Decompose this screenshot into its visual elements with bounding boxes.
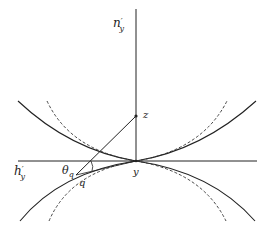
- angle-arc: [91, 161, 93, 171]
- solid-upper-right-curve: [136, 101, 256, 161]
- segment-q-y: [76, 161, 136, 175]
- label-angle: θq: [62, 164, 74, 179]
- label-horizontal-axis: h′y: [14, 164, 26, 181]
- dashed-upper-left-curve: [47, 101, 136, 161]
- point-z-marker: [134, 114, 137, 117]
- diagram-canvas: n′y h′y z y q θq: [0, 0, 271, 237]
- solid-lower-right-curve: [136, 161, 255, 221]
- dashed-upper-right-curve: [136, 101, 227, 161]
- label-point-q: q: [79, 177, 85, 188]
- label-point-z: z: [142, 109, 149, 120]
- dashed-lower-right-curve: [136, 161, 226, 221]
- label-vertical-axis: n′y: [113, 16, 125, 33]
- label-point-y: y: [132, 166, 139, 177]
- point-y-marker: [135, 160, 138, 163]
- solid-upper-left-curve: [18, 101, 136, 161]
- solid-lower-left-curve: [20, 161, 136, 221]
